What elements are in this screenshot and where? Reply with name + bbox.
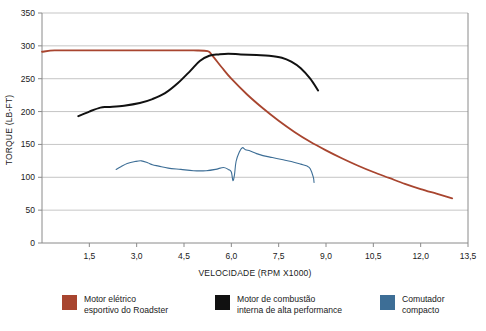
legend-swatch-electric-motor xyxy=(62,295,77,310)
svg-text:200: 200 xyxy=(21,107,35,117)
x-tick-labels: 1,53,04,56,07,59,010,512,013,5 xyxy=(83,251,476,261)
legend-item-electric-motor: Motor elétrico esportivo do Roadster xyxy=(62,294,168,317)
data-series-lines xyxy=(42,50,452,198)
y-tick-labels: 050100150200250300350 xyxy=(21,8,35,248)
svg-text:150: 150 xyxy=(21,139,35,149)
legend-item-combustion-engine: Motor de combustão interna de alta perfo… xyxy=(215,294,342,317)
svg-text:13,5: 13,5 xyxy=(460,251,477,261)
svg-text:3,0: 3,0 xyxy=(131,251,143,261)
x-axis xyxy=(42,13,468,247)
grid-lines xyxy=(42,13,468,210)
chart-plot-area: 050100150200250300350 1,53,04,56,07,59,0… xyxy=(0,0,486,290)
x-axis-title: VELOCIDADE (RPM X1000) xyxy=(198,268,311,278)
svg-text:300: 300 xyxy=(21,41,35,51)
svg-text:0: 0 xyxy=(30,238,35,248)
svg-text:100: 100 xyxy=(21,172,35,182)
svg-text:1,5: 1,5 xyxy=(83,251,95,261)
svg-text:10,5: 10,5 xyxy=(365,251,382,261)
series-line-1 xyxy=(78,54,318,116)
svg-text:12,0: 12,0 xyxy=(412,251,429,261)
legend-label-combustion-engine: Motor de combustão interna de alta perfo… xyxy=(237,294,342,317)
legend-item-compact-commutator: Comutador compacto xyxy=(380,294,445,317)
svg-text:350: 350 xyxy=(21,8,35,18)
y-axis-title: TORQUE (LB-FT) xyxy=(4,95,14,166)
svg-text:250: 250 xyxy=(21,74,35,84)
y-axis xyxy=(38,13,42,243)
legend-label-electric-motor: Motor elétrico esportivo do Roadster xyxy=(84,294,168,317)
svg-text:7,5: 7,5 xyxy=(273,251,285,261)
svg-text:4,5: 4,5 xyxy=(178,251,190,261)
svg-text:50: 50 xyxy=(26,205,36,215)
legend-label-compact-commutator: Comutador compacto xyxy=(402,294,445,317)
legend-swatch-combustion-engine xyxy=(215,295,230,310)
series-line-0 xyxy=(42,50,452,198)
torque-vs-speed-chart: 050100150200250300350 1,53,04,56,07,59,0… xyxy=(0,0,486,331)
svg-text:6,0: 6,0 xyxy=(225,251,237,261)
chart-legend: Motor elétrico esportivo do Roadster Mot… xyxy=(0,288,486,331)
legend-swatch-compact-commutator xyxy=(380,295,395,310)
svg-text:9,0: 9,0 xyxy=(320,251,332,261)
